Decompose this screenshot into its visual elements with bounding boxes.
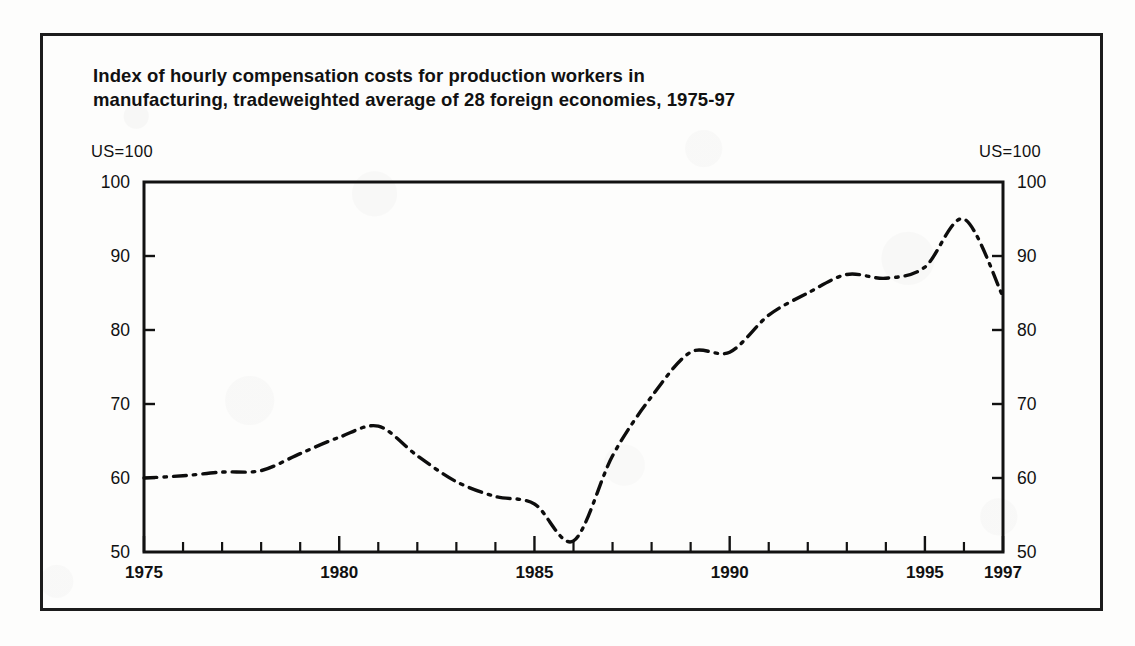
y-tick-label-left: 70 xyxy=(111,394,131,414)
axes-group xyxy=(144,182,1003,552)
y-tick-label-right: 90 xyxy=(1017,246,1037,266)
y-tick-label-left: 60 xyxy=(111,468,131,488)
y-tick-label-right: 80 xyxy=(1017,320,1037,340)
x-tick-label: 1990 xyxy=(711,563,749,582)
y-tick-label-left: 100 xyxy=(101,172,130,192)
y-tick-label-left: 80 xyxy=(111,320,131,340)
x-tick-label: 1997 xyxy=(984,563,1022,582)
chart-plot: 1009080706050 1009080706050 197519801985… xyxy=(43,36,1106,614)
axis-box xyxy=(144,182,1003,552)
tick-marks-group xyxy=(144,256,1003,552)
y-tick-label-left: 90 xyxy=(111,246,131,266)
y-tick-label-right: 60 xyxy=(1017,468,1037,488)
data-series-line xyxy=(144,219,1003,542)
y-tick-label-right: 70 xyxy=(1017,394,1037,414)
x-axis-labels: 197519801985199019951997 xyxy=(125,563,1022,582)
y-axis-labels-left: 1009080706050 xyxy=(101,172,130,562)
y-axis-labels-right: 1009080706050 xyxy=(1017,172,1046,562)
y-tick-label-left: 50 xyxy=(111,542,131,562)
x-tick-label: 1975 xyxy=(125,563,163,582)
y-tick-label-right: 50 xyxy=(1017,542,1037,562)
y-tick-label-right: 100 xyxy=(1017,172,1046,192)
x-tick-label: 1980 xyxy=(320,563,358,582)
figure-frame: Index of hourly compensation costs for p… xyxy=(40,33,1103,611)
x-tick-label: 1995 xyxy=(906,563,944,582)
x-tick-label: 1985 xyxy=(516,563,554,582)
